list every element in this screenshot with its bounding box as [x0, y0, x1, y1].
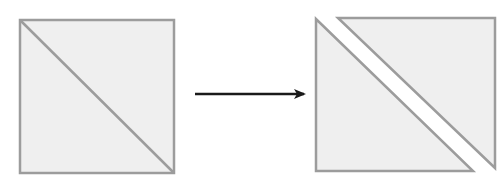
diagram-canvas [0, 0, 503, 183]
split-triangles-group [316, 18, 495, 171]
original-square-group [20, 20, 174, 173]
